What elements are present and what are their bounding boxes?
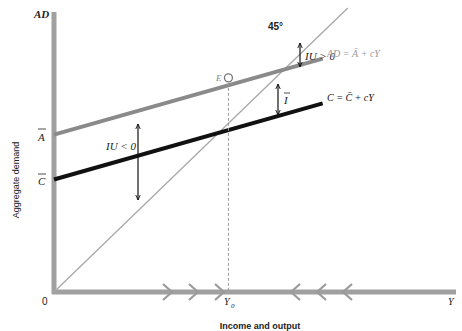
iu-negative-label: IU < 0 (105, 140, 137, 152)
ad-axis-label: AD (33, 8, 49, 20)
equilibrium-label: E (215, 73, 222, 83)
ad-equation-label: AD = Ā + cY (326, 48, 381, 59)
y0-subscript: 0 (231, 302, 235, 310)
keynesian-cross-diagram: AD Aggregate demand A C 0 Y 0 Y Income a… (0, 0, 462, 331)
x-axis-title: Income and output (220, 321, 301, 331)
c-equation-label: C = C̄ + cY (327, 92, 375, 103)
consumption-line (54, 103, 323, 179)
45-degree-label: 45° (268, 21, 283, 32)
y0-label: Y 0 (224, 296, 235, 310)
a-bar-tick: A (37, 129, 46, 143)
c-bar-tick: C (38, 174, 46, 187)
i-bar-label-group: I (283, 93, 290, 106)
a-bar-label: A (37, 131, 45, 143)
c-bar-label: C (38, 175, 46, 187)
y0-main: Y (224, 296, 231, 307)
x-axis-end-label: Y (448, 296, 455, 307)
y-axis-title: Aggregate demand (11, 142, 21, 219)
ad-line (54, 59, 323, 135)
equilibrium-point (224, 74, 232, 82)
i-bar-label: I (283, 94, 289, 106)
45-degree-line (54, 8, 348, 292)
origin-label: 0 (42, 296, 48, 307)
